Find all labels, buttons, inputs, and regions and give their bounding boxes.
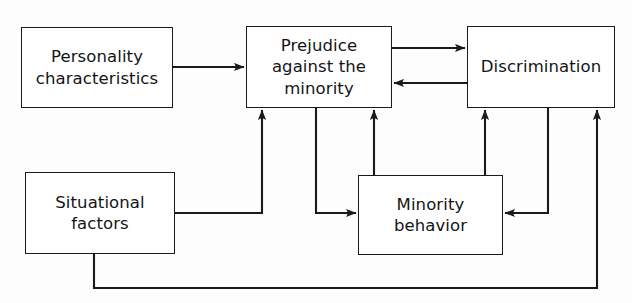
- diagram-canvas: Personality characteristics Prejudice ag…: [0, 0, 632, 303]
- edge-prejudice-to-minority: [316, 108, 356, 213]
- edge-situational-to-prejudice-left: [175, 110, 262, 213]
- edge-discrimination-to-minority: [505, 108, 548, 213]
- node-prejudice-against-the-minority-label: Prejudice against the minority: [268, 35, 370, 99]
- node-personality-characteristics-label: Personality characteristics: [32, 46, 162, 89]
- node-prejudice-against-the-minority[interactable]: Prejudice against the minority: [246, 26, 392, 108]
- node-situational-factors-label: Situational factors: [51, 192, 149, 235]
- node-situational-factors[interactable]: Situational factors: [25, 172, 175, 254]
- node-discrimination[interactable]: Discrimination: [467, 26, 615, 108]
- node-minority-behavior-label: Minority behavior: [390, 194, 471, 237]
- node-personality-characteristics[interactable]: Personality characteristics: [21, 27, 173, 108]
- node-discrimination-label: Discrimination: [477, 56, 606, 77]
- node-minority-behavior[interactable]: Minority behavior: [358, 175, 503, 255]
